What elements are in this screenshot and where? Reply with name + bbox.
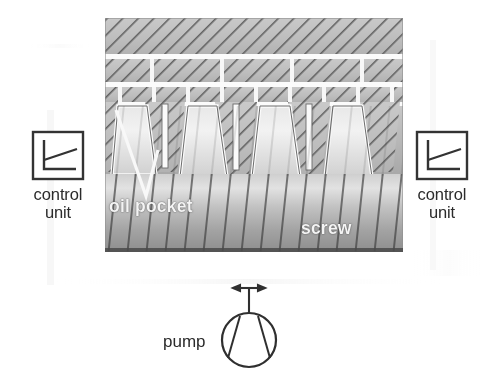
pump-label: pump — [163, 332, 206, 352]
nut-hatched-bands — [105, 18, 403, 106]
pump-circle-icon — [222, 313, 276, 367]
screw-label: screw — [301, 218, 352, 239]
control-unit-right-label-line1: control — [418, 185, 467, 203]
control-unit-right-label-line2: unit — [407, 203, 477, 221]
control-unit-right-icon[interactable] — [417, 132, 467, 179]
control-unit-left-icon[interactable] — [33, 132, 83, 179]
figure-canvas: control unit control unit pump oil pocke… — [0, 0, 499, 385]
control-unit-left-label-line1: control — [34, 185, 83, 203]
oil-pocket-label: oil pocket — [109, 196, 193, 217]
pump-symbol[interactable] — [222, 285, 276, 367]
control-unit-left-label-line2: unit — [23, 203, 93, 221]
control-unit-right-label: control unit — [407, 185, 477, 222]
control-unit-left-label: control unit — [23, 185, 93, 222]
double-headed-arrow-icon — [233, 285, 265, 313]
